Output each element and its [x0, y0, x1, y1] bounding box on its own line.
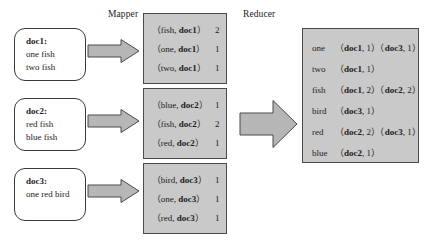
reducer-posting: （doc1, 2） — [335, 85, 380, 95]
document-box-doc1: doc1:one fishtwo fish — [14, 28, 86, 81]
mapper-output-row: （one, doc1）1 — [144, 40, 226, 59]
doc-id: doc3 — [178, 194, 196, 204]
doc-id: doc3 — [344, 106, 362, 116]
mapper-output-row: （one, doc3）1 — [144, 190, 226, 209]
reducer-stage-label: Reducer — [243, 9, 275, 19]
reducer-output-row: two （doc1, 1） — [303, 59, 418, 80]
document-text-line: red fish — [26, 118, 85, 131]
mapper-key-pair: （one, doc1） — [152, 40, 215, 59]
reducer-posting: （doc1, 1） — [335, 64, 380, 74]
reducer-output-box: one （doc1, 1）（doc3, 1）two （doc1, 1）fish … — [302, 28, 419, 163]
doc-id: doc3 — [177, 213, 195, 223]
reducer-posting: （doc3, 1） — [380, 43, 421, 53]
doc-id: doc2 — [344, 148, 362, 158]
doc-id: doc1 — [344, 43, 362, 53]
doc-id: doc2 — [179, 119, 197, 129]
mapper-output-row: （fish, doc2）2 — [144, 115, 226, 134]
mapper-count: 2 — [215, 115, 220, 134]
mapper-key-pair: （blue, doc2） — [152, 96, 215, 115]
doc-id: doc1 — [344, 64, 362, 74]
mapper-output-box-1: （fish, doc1）2（one, doc1）1（two, doc1）1 — [143, 13, 227, 84]
mapper-stage-label: Mapper — [108, 9, 138, 19]
reducer-key: fish — [312, 80, 333, 101]
reducer-posting: （doc2, 2） — [380, 85, 421, 95]
doc-id: doc2 — [177, 138, 195, 148]
doc-id: doc2 — [344, 127, 362, 137]
mapper-count: 1 — [215, 171, 220, 190]
document-text-line: one fish — [26, 48, 85, 61]
reducer-key: one — [312, 38, 333, 59]
document-title: doc2: — [26, 105, 85, 118]
mapper-key-pair: （fish, doc2） — [152, 115, 215, 134]
arrow-doc3-to-mapper — [88, 179, 140, 203]
reducer-output-row: red （doc2, 2）（doc3, 1） — [303, 122, 418, 143]
mapper-key-pair: （fish, doc1） — [152, 21, 215, 40]
mapper-output-box-2: （blue, doc2）1（fish, doc2）2（red, doc2）1 — [143, 88, 227, 159]
caption-sliver — [0, 235, 424, 243]
doc-id: doc3 — [180, 175, 198, 185]
reducer-key: bird — [312, 101, 333, 122]
document-box-doc3: doc3:one red bird — [14, 168, 86, 221]
mapper-output-box-3: （bird, doc3）1（one, doc3）1（red, doc3）1 — [143, 163, 227, 234]
mapper-key-pair: （bird, doc3） — [152, 171, 215, 190]
doc-id: doc2 — [385, 85, 403, 95]
mapper-output-row: （bird, doc3）1 — [144, 171, 226, 190]
mapper-count: 1 — [215, 96, 220, 115]
reducer-posting: （doc3, 1） — [380, 127, 421, 137]
mapper-count: 1 — [215, 209, 220, 228]
reducer-key: two — [312, 59, 333, 80]
mapper-key-pair: （one, doc3） — [152, 190, 215, 209]
reducer-output-row: blue （doc2, 1） — [303, 143, 418, 164]
mapper-key-pair: （red, doc3） — [152, 209, 215, 228]
mapper-key-pair: （two, doc1） — [152, 59, 215, 78]
doc-id: doc3 — [385, 43, 403, 53]
mapper-output-row: （fish, doc1）2 — [144, 21, 226, 40]
mapper-output-row: （two, doc1）1 — [144, 59, 226, 78]
mapper-count: 1 — [215, 190, 220, 209]
mapper-count: 2 — [215, 21, 220, 40]
reducer-posting: （doc2, 2） — [335, 127, 380, 137]
reducer-output-row: fish （doc1, 2）（doc2, 2） — [303, 80, 418, 101]
document-box-doc2: doc2:red fishblue fish — [14, 98, 86, 151]
reducer-posting: （doc3, 1） — [335, 106, 380, 116]
arrow-doc1-to-mapper — [88, 39, 140, 63]
mapper-output-row: （blue, doc2）1 — [144, 96, 226, 115]
doc-id: doc1 — [344, 85, 362, 95]
reducer-output-row: one （doc1, 1）（doc3, 1） — [303, 38, 418, 59]
doc-id: doc1 — [178, 44, 196, 54]
doc-id: doc1 — [179, 25, 197, 35]
mapper-count: 1 — [215, 134, 220, 153]
doc-id: doc2 — [181, 100, 199, 110]
mapreduce-diagram: Mapper Reducer doc1:one fishtwo fish doc… — [0, 0, 424, 243]
arrow-mapper-to-reducer — [240, 100, 298, 148]
mapper-key-pair: （red, doc2） — [152, 134, 215, 153]
doc-id: doc3 — [385, 127, 403, 137]
doc-id: doc1 — [179, 63, 197, 73]
reducer-posting: （doc1, 1） — [335, 43, 380, 53]
mapper-output-row: （red, doc3）1 — [144, 209, 226, 228]
document-text-line: two fish — [26, 61, 85, 74]
reducer-output-row: bird （doc3, 1） — [303, 101, 418, 122]
mapper-output-row: （red, doc2）1 — [144, 134, 226, 153]
document-text-line: one red bird — [26, 188, 85, 201]
mapper-count: 1 — [215, 40, 220, 59]
arrow-doc2-to-mapper — [88, 109, 140, 133]
document-title: doc1: — [26, 35, 85, 48]
mapper-count: 1 — [215, 59, 220, 78]
reducer-key: blue — [312, 143, 333, 164]
reducer-posting: （doc2, 1） — [335, 148, 380, 158]
document-text-line: blue fish — [26, 131, 85, 144]
document-title: doc3: — [26, 175, 85, 188]
reducer-key: red — [312, 122, 333, 143]
